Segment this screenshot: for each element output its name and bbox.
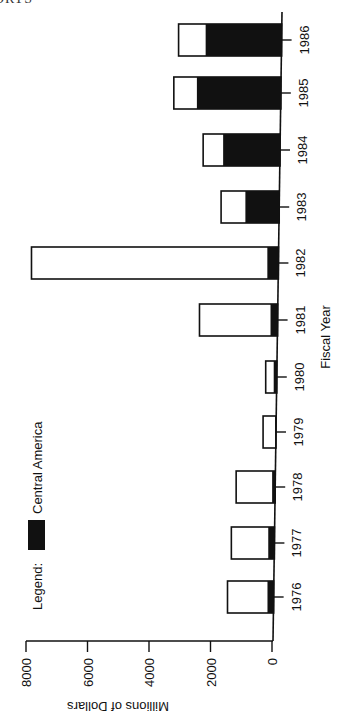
category-label: 1984 — [295, 136, 310, 165]
bar-total-segment — [263, 416, 276, 448]
legend-entry-central-america: Central America — [30, 421, 45, 514]
bar-central-america-segment — [267, 581, 273, 613]
category-label: 1977 — [289, 529, 304, 558]
bar-1984 — [203, 134, 280, 166]
bar-central-america-segment — [268, 527, 274, 559]
bar-central-america-segment — [272, 471, 275, 503]
value-tick-label: 6000 — [81, 658, 96, 687]
category-label: 1980 — [292, 363, 307, 392]
value-tick-label: 2000 — [204, 658, 219, 687]
bar-1983 — [221, 191, 279, 223]
bar-central-america-segment — [206, 24, 282, 56]
bar-1981 — [199, 304, 277, 336]
category-label: 1979 — [291, 418, 306, 447]
bar-1978 — [236, 471, 275, 503]
bar-1977 — [231, 527, 274, 559]
bar-1980 — [266, 361, 277, 393]
bar-central-america-segment — [197, 77, 281, 109]
category-label: 1983 — [294, 193, 309, 222]
bars-group — [31, 24, 281, 613]
bar-1982 — [31, 247, 278, 279]
y-axis-title: Millions of Dollars — [67, 699, 169, 714]
bar-central-america-segment — [275, 416, 276, 448]
category-label: 1981 — [293, 306, 308, 335]
legend-label: Legend: — [30, 563, 45, 610]
bar-1979 — [263, 416, 276, 448]
bar-central-america-segment — [274, 361, 277, 393]
bar-central-america-segment — [271, 304, 278, 336]
category-label: 1982 — [293, 249, 308, 278]
bar-central-america-segment — [223, 134, 280, 166]
bar-total-segment — [236, 471, 275, 503]
category-label: 1978 — [290, 473, 305, 502]
bar-central-america-segment — [267, 247, 278, 279]
bar-total-segment — [228, 581, 274, 613]
value-tick-label: 8000 — [19, 658, 34, 687]
x-axis-title: Fiscal Year — [318, 305, 333, 369]
value-tick-label: 4000 — [142, 658, 157, 687]
bar-total-segment — [31, 247, 278, 279]
bar-total-segment — [231, 527, 274, 559]
category-label: 1986 — [297, 26, 312, 55]
bar-total-segment — [199, 304, 277, 336]
value-axis-ticks: 02000400060008000 — [19, 641, 280, 687]
bar-1986 — [179, 24, 282, 56]
category-label: 1976 — [289, 583, 304, 612]
category-label: 1985 — [296, 79, 311, 108]
category-labels: 1976197719781979198019811982198319841985… — [274, 26, 312, 612]
legend-swatch-central-america — [28, 520, 45, 550]
bar-central-america-segment — [245, 191, 279, 223]
legend: Legend: Central America — [28, 421, 45, 610]
value-tick-label: 0 — [265, 658, 280, 665]
bar-1976 — [228, 581, 274, 613]
bar-1985 — [174, 77, 281, 109]
stacked-bar-chart: 02000400060008000 1976197719781979198019… — [0, 0, 347, 724]
